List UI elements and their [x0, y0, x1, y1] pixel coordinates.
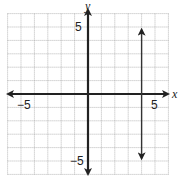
x-tick-label: −5	[17, 98, 31, 112]
x-tick-label: 5	[151, 98, 158, 112]
x-axis-label: x	[171, 87, 178, 101]
coordinate-plane: −555−5 x y	[0, 0, 183, 180]
y-tick-label: −5	[70, 154, 84, 168]
y-axis-label: y	[84, 0, 91, 13]
y-tick-label: 5	[75, 20, 82, 34]
